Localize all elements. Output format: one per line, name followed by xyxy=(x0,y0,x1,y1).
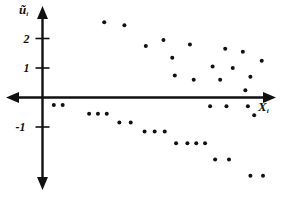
scatter-point xyxy=(52,103,56,107)
scatter-point xyxy=(246,104,250,108)
y-axis-bottom-arrowhead xyxy=(37,177,48,190)
scatter-point xyxy=(105,112,109,116)
scatter-point xyxy=(143,129,147,133)
scatter-point xyxy=(248,75,252,79)
scatter-point xyxy=(243,88,247,92)
x-axis-label-subscript: i xyxy=(267,107,269,115)
scatter-point xyxy=(192,78,196,82)
scatter-point xyxy=(211,65,215,69)
residual-scatter-figure: ũi Xi 21-1 xyxy=(0,0,288,198)
scatter-point xyxy=(129,121,133,125)
scatter-point xyxy=(248,174,252,178)
scatter-point xyxy=(241,50,245,54)
scatter-point xyxy=(260,59,264,63)
scatter-point xyxy=(96,112,100,116)
scatter-point xyxy=(102,20,106,24)
scatter-point xyxy=(153,129,157,133)
x-axis-label-text: X xyxy=(258,99,267,114)
y-axis-tick-label: -1 xyxy=(16,121,26,133)
scatter-point xyxy=(144,44,148,48)
scatter-point xyxy=(122,23,126,27)
scatter-point xyxy=(194,141,198,145)
scatter-point xyxy=(231,66,235,70)
scatter-point xyxy=(174,141,178,145)
scatter-point xyxy=(261,174,265,178)
scatter-point xyxy=(170,56,174,60)
scatter-point xyxy=(61,103,65,107)
y-axis-label-subscript: i xyxy=(26,10,28,18)
x-axis-left-arrowhead xyxy=(6,92,19,103)
scatter-point xyxy=(227,157,231,161)
scatter-point xyxy=(161,38,165,42)
scatter-point xyxy=(188,42,192,46)
x-axis-label: Xi xyxy=(258,100,269,113)
y-axis-label: ũi xyxy=(19,3,28,16)
scatter-point xyxy=(163,129,167,133)
scatter-point xyxy=(185,141,189,145)
scatter-point xyxy=(218,78,222,82)
y-axis-tick-label: 2 xyxy=(24,33,30,45)
scatter-point xyxy=(223,47,227,51)
y-axis-tick-label: 1 xyxy=(24,62,30,74)
data-points-layer xyxy=(52,20,265,177)
scatter-point xyxy=(252,113,256,117)
scatter-point xyxy=(203,141,207,145)
scatter-point xyxy=(117,121,121,125)
scatter-point xyxy=(224,104,228,108)
scatter-plot-canvas xyxy=(0,0,288,198)
x-axis-group xyxy=(6,92,276,103)
y-axis-top-arrowhead xyxy=(37,6,48,19)
scatter-point xyxy=(173,73,177,77)
scatter-point xyxy=(208,104,212,108)
scatter-point xyxy=(213,157,217,161)
scatter-point xyxy=(87,112,91,116)
